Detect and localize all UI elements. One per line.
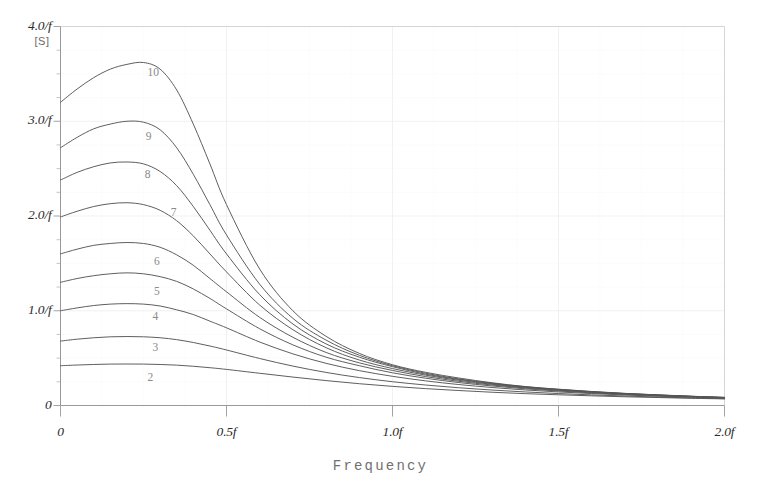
curve-label-9: 9 xyxy=(146,130,152,142)
x-tick-label-4: 2.0f xyxy=(695,424,755,440)
y-tick-label-1: 1.0/f xyxy=(28,302,51,318)
y-tick-label-0: 0 xyxy=(45,397,52,413)
y-tick-label-2: 2.0/f xyxy=(28,207,51,223)
x-tick-label-3: 1.5f xyxy=(529,424,589,440)
y-axis-unit-label: [S] xyxy=(35,35,50,47)
curve-label-8: 8 xyxy=(145,168,151,180)
curve-label-4: 4 xyxy=(152,310,158,322)
curve-label-5: 5 xyxy=(154,285,160,297)
curve-label-7: 7 xyxy=(171,206,177,218)
chart-figure: 01.0/f2.0/f3.0/f4.0/f 00.5f1.0f1.5f2.0f … xyxy=(0,0,761,492)
x-axis-title: Frequency xyxy=(0,458,761,474)
plot-canvas xyxy=(0,0,761,492)
x-tick-label-1: 0.5f xyxy=(197,424,257,440)
x-tick-label-2: 1.0f xyxy=(363,424,423,440)
curve-label-10: 10 xyxy=(147,66,159,78)
curve-label-3: 3 xyxy=(152,341,158,353)
x-tick-label-0: 0 xyxy=(31,424,91,440)
y-tick-label-4: 4.0/f xyxy=(28,18,51,34)
curve-label-2: 2 xyxy=(147,371,153,383)
major-gridlines xyxy=(61,27,725,406)
curve-label-6: 6 xyxy=(154,255,160,267)
y-tick-label-3: 3.0/f xyxy=(28,112,51,128)
